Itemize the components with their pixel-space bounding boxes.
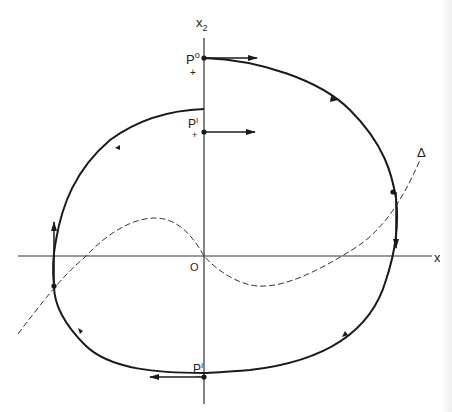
delta-label: Δ <box>417 145 426 160</box>
label-p-plus-1-sub: + <box>192 130 197 140</box>
arrow-marker-lower-left <box>78 328 83 334</box>
point-p-plus-0 <box>201 55 206 60</box>
delta-curve <box>18 160 420 334</box>
point-left-delta-intersection <box>51 283 56 288</box>
point-p-plus-1 <box>201 129 206 134</box>
label-p-plus-0-sub: + <box>190 67 196 78</box>
label-p-plus-1: PI <box>188 116 198 131</box>
arrow-marker-upper-left <box>115 145 120 150</box>
phase-portrait-diagram: x2 x1 O Δ Po + PI + PI − <box>0 0 452 412</box>
scan-edge-strip <box>440 0 452 412</box>
point-right-delta-intersection <box>390 189 395 194</box>
point-p-minus-1 <box>201 374 206 379</box>
axes <box>18 38 432 404</box>
trajectory-curve <box>53 58 397 373</box>
origin-label: O <box>190 261 199 273</box>
x2-axis-label: x2 <box>196 15 208 33</box>
label-p-minus-1-sub: − <box>195 371 200 381</box>
label-p-plus-0: Po <box>186 50 200 67</box>
